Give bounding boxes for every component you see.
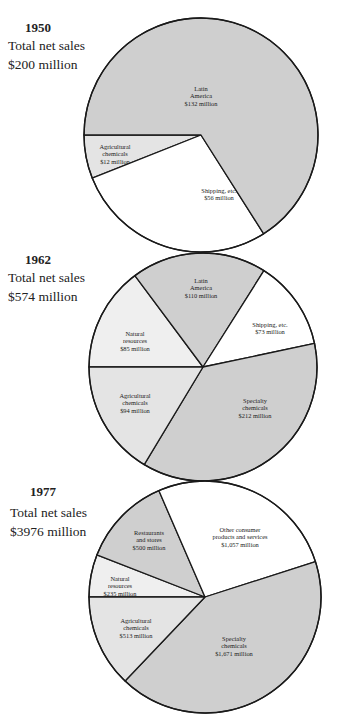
pie-chart-1977: Naturalresources$235 millionRestaurantsa… — [89, 481, 321, 713]
slice-label: Shipping, etc.$56 million — [201, 187, 237, 201]
pie-chart-1950: LatinAmerica$132 millionAgriculturalchem… — [84, 18, 318, 252]
slice-label: Agriculturalchemicals$12 million — [99, 143, 130, 165]
slice-label: Shipping, etc.$73 million — [252, 321, 288, 335]
pie-charts-canvas: LatinAmerica$132 millionAgriculturalchem… — [0, 0, 337, 718]
pie-chart-1962: Naturalresources$85 millionLatinAmerica$… — [89, 253, 317, 481]
slice-label: Agriculturalchemicals$513 million — [120, 617, 154, 639]
slice-label: Restaurantsand stores$500 million — [133, 529, 167, 551]
slice-label: Agriculturalchemicals$94 million — [119, 392, 150, 414]
